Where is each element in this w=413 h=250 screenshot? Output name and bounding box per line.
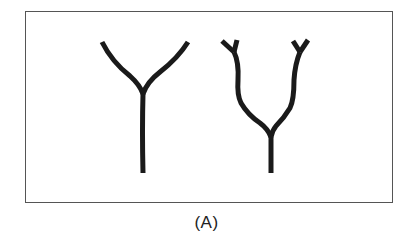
left-fork-inner xyxy=(234,40,237,52)
double-y-branch xyxy=(222,40,308,173)
left-arm xyxy=(102,42,143,94)
right-branch xyxy=(271,52,300,137)
left-branch xyxy=(234,52,271,137)
right-fork-inner xyxy=(293,41,300,52)
simple-y-branch xyxy=(102,42,188,173)
figure-caption: (A) xyxy=(0,213,413,233)
stem xyxy=(143,94,144,173)
right-arm xyxy=(143,42,188,94)
